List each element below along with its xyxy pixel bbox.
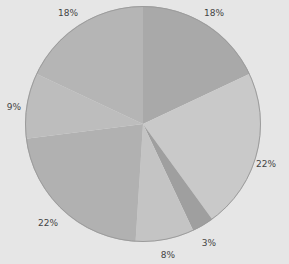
slice-label: 18% bbox=[58, 8, 78, 18]
slice-label: 3% bbox=[202, 238, 216, 248]
pie-slices bbox=[25, 6, 261, 242]
slice-label: 22% bbox=[256, 159, 276, 169]
slice-label: 9% bbox=[7, 102, 21, 112]
slice-label: 8% bbox=[161, 250, 175, 260]
slice-label: 22% bbox=[38, 218, 58, 228]
slice-label: 18% bbox=[204, 8, 224, 18]
